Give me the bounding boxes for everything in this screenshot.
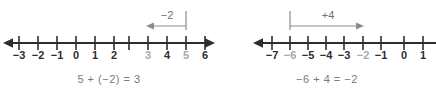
tick-label-neg1: −1 (375, 49, 388, 62)
tick-label-neg2: −2 (32, 49, 45, 62)
tick-label-1: 1 (92, 49, 98, 62)
equation-right: −6 + 4 = −2 (218, 72, 436, 86)
tick-label-neg2: −2 (357, 49, 370, 62)
tick-label-6: 6 (202, 49, 208, 62)
tick-label-5: 5 (183, 49, 189, 62)
tick-label-neg4: −4 (320, 49, 333, 62)
tick-label-0: 0 (401, 49, 407, 62)
tick-label-2: 2 (111, 49, 117, 62)
tick-label-neg3: −3 (338, 49, 351, 62)
tick-label-neg3: −3 (13, 49, 26, 62)
tick-label-0: 0 (73, 49, 79, 62)
jump-label-minus-2: −2 (161, 9, 174, 21)
tick-label-group-left: −3 −2 −1 0 1 2 3 4 5 6 (0, 49, 218, 63)
tick-label-neg1: −1 (51, 49, 64, 62)
tick-label-3: 3 (145, 49, 151, 62)
tick-label-group-right: −7 −6 −5 −4 −3 −2 −1 0 1 (218, 49, 436, 63)
tick-label-neg7: −7 (266, 49, 279, 62)
equation-left: 5 + (−2) = 3 (0, 72, 218, 86)
number-line-figure: −2 −3 −2 −1 0 1 2 3 4 5 6 5 + (−2) = 3 (0, 0, 436, 96)
number-line-panel-neg6-plus-4: +4 −7 −6 −5 −4 −3 −2 −1 0 1 −6 + 4 = −2 (218, 0, 436, 96)
jump-label-plus-4: +4 (322, 9, 335, 21)
tick-label-1: 1 (420, 49, 426, 62)
tick-label-neg6: −6 (284, 49, 297, 62)
tick-label-neg5: −5 (302, 49, 315, 62)
number-line-panel-5-plus-neg2: −2 −3 −2 −1 0 1 2 3 4 5 6 5 + (−2) = 3 (0, 0, 218, 96)
tick-label-4: 4 (164, 49, 170, 62)
number-line-right-axis (253, 36, 436, 50)
number-line-left-axis (3, 36, 215, 50)
